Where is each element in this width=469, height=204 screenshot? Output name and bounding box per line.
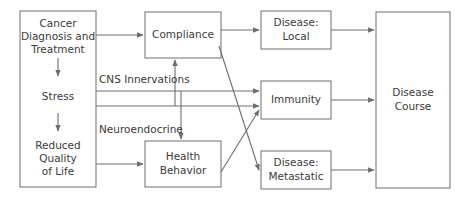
label-reduced-quality-line2: Quality <box>39 152 77 164</box>
label-immunity: Immunity <box>271 93 321 105</box>
label-cancer-diagnosis-line1: Cancer <box>40 17 78 29</box>
label-disease-local-line1: Disease: <box>274 16 319 28</box>
label-cns-innervations: CNS Innervations <box>99 73 190 85</box>
label-reduced-quality-line1: Reduced <box>35 139 81 151</box>
label-health-behavior-line2: Behavior <box>160 164 207 176</box>
label-disease-metastatic-line2: Metastatic <box>269 170 324 182</box>
label-neuroendocrine: Neuroendocrine <box>99 123 183 135</box>
label-disease-metastatic-line1: Disease: <box>274 156 319 168</box>
label-disease-local-line2: Local <box>282 30 309 42</box>
pathway-diagram: Cancer Diagnosis and Treatment Stress Re… <box>0 0 469 204</box>
label-reduced-quality-line3: of Life <box>42 165 74 177</box>
edge-compliance-to-disease-metastatic <box>219 46 259 170</box>
label-disease-course-line2: Course <box>395 100 432 112</box>
edge-health-behavior-to-immunity <box>221 110 259 172</box>
label-cancer-diagnosis-line2: Diagnosis and <box>21 30 95 42</box>
label-health-behavior-line1: Health <box>166 150 200 162</box>
diagram-canvas: Cancer Diagnosis and Treatment Stress Re… <box>0 0 469 204</box>
label-compliance: Compliance <box>152 28 214 40</box>
label-cancer-diagnosis-line3: Treatment <box>30 43 84 55</box>
label-disease-course-line1: Disease <box>392 86 433 98</box>
label-stress: Stress <box>42 90 74 102</box>
